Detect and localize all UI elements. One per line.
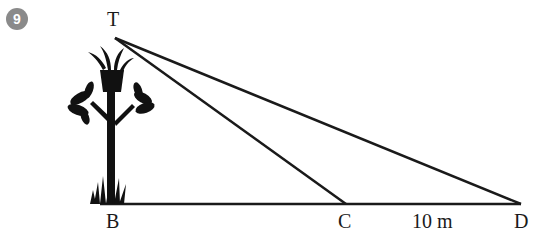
label-D: D — [514, 210, 528, 233]
line-TD — [115, 38, 521, 204]
label-B: B — [106, 210, 119, 233]
label-CD-distance: 10 m — [412, 210, 453, 233]
label-C: C — [338, 210, 351, 233]
label-T: T — [107, 8, 119, 31]
tree-icon — [66, 46, 156, 204]
line-TC — [115, 38, 346, 204]
triangle-diagram — [0, 0, 542, 242]
